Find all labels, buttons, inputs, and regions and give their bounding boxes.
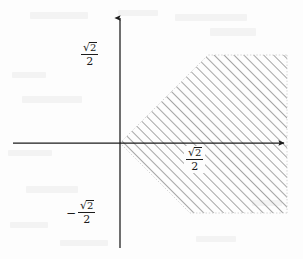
square-root-icon: √2 (79, 200, 94, 211)
fraction-sqrt2-over-2: √2 2 (186, 147, 203, 172)
fraction-numerator: √2 (186, 147, 203, 160)
y-axis-negative-tick-label: − √2 2 (66, 200, 95, 225)
coordinate-plane-graphic (0, 0, 303, 259)
hatched-region-fill (110, 45, 295, 225)
y-axis-positive-tick-label: √2 2 (81, 42, 98, 67)
radicand-value: 2 (86, 200, 94, 211)
fraction-denominator: 2 (186, 160, 203, 172)
radicand-value: 2 (89, 42, 97, 53)
figure-canvas: √2 2 − √2 2 √2 2 (0, 0, 303, 259)
fraction-numerator: √2 (78, 200, 95, 213)
fraction-denominator: 2 (78, 213, 95, 225)
x-axis-tick-label: √2 2 (184, 146, 205, 173)
fraction-denominator: 2 (81, 55, 98, 67)
radicand-value: 2 (194, 147, 202, 158)
minus-sign: − (66, 207, 76, 219)
fraction-sqrt2-over-2: √2 2 (81, 42, 98, 67)
fraction-numerator: √2 (81, 42, 98, 55)
square-root-icon: √2 (187, 147, 202, 158)
square-root-icon: √2 (82, 42, 97, 53)
fraction-sqrt2-over-2: √2 2 (78, 200, 95, 225)
